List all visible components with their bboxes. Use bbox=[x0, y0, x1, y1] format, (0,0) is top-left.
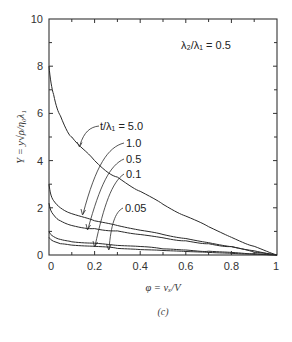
x-tick-labels: 0 0.2 0.4 0.6 0.8 1 bbox=[48, 260, 279, 272]
leader-t-5-0 bbox=[80, 126, 99, 145]
x-tick-0: 0 bbox=[48, 260, 54, 272]
curve-t-1-0 bbox=[49, 184, 277, 255]
y-axis-label: Y = y√ρ/η₀λ₁ bbox=[15, 110, 26, 164]
label-t-1-0: 1.0 bbox=[126, 137, 141, 149]
x-ticks bbox=[72, 19, 254, 255]
label-t-5-0: t/λ₁ = 5.0 bbox=[100, 120, 143, 132]
curve-t-5-0 bbox=[49, 66, 277, 255]
leader-t-1-0 bbox=[83, 143, 124, 214]
chart-svg: 0 2 4 6 8 10 0 0.2 0.4 0.6 0.8 1 Y = y√ρ… bbox=[0, 0, 292, 342]
x-tick-1: 1 bbox=[273, 260, 279, 272]
y-tick-8: 8 bbox=[37, 60, 43, 72]
curve-labels: t/λ₁ = 5.0 1.0 0.5 0.1 0.05 bbox=[100, 120, 146, 214]
y-tick-labels: 0 2 4 6 8 10 bbox=[31, 13, 43, 261]
label-t-0-5: 0.5 bbox=[126, 153, 141, 165]
x-tick-0-6: 0.6 bbox=[178, 260, 193, 272]
leader-t-0-05 bbox=[109, 208, 123, 249]
y-tick-10: 10 bbox=[31, 13, 43, 25]
y-tick-6: 6 bbox=[37, 107, 43, 119]
figure-caption: (c) bbox=[157, 306, 169, 318]
curve-t-0-5 bbox=[49, 203, 277, 255]
x-tick-0-4: 0.4 bbox=[133, 260, 148, 272]
label-t-0-1: 0.1 bbox=[126, 168, 141, 180]
y-tick-4: 4 bbox=[37, 155, 43, 167]
label-t-0-05: 0.05 bbox=[125, 202, 146, 214]
x-tick-0-2: 0.2 bbox=[87, 260, 102, 272]
x-tick-0-8: 0.8 bbox=[224, 260, 239, 272]
y-tick-0: 0 bbox=[37, 249, 43, 261]
curves bbox=[49, 66, 277, 255]
y-tick-2: 2 bbox=[37, 202, 43, 214]
leader-t-0-5 bbox=[88, 159, 124, 229]
x-axis-label: φ = vₓ/V bbox=[145, 282, 182, 293]
lambda-ratio-annotation: λ₂/λ₁ = 0.5 bbox=[181, 39, 231, 51]
